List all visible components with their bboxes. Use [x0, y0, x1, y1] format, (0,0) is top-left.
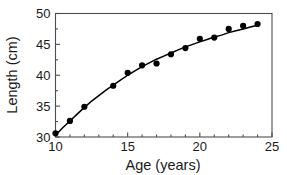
data-point-marker — [197, 36, 203, 42]
data-point-marker — [52, 130, 58, 136]
data-point-marker — [226, 26, 232, 32]
x-tick-label: 20 — [193, 139, 207, 154]
data-point-marker — [182, 45, 188, 51]
data-point-marker — [168, 51, 174, 57]
data-point-marker — [240, 23, 246, 29]
y-tick-label: 30 — [36, 130, 50, 145]
data-point-marker — [254, 21, 260, 27]
data-point-marker — [139, 62, 145, 68]
data-point-marker — [81, 104, 87, 110]
data-point-marker — [110, 83, 116, 89]
data-point-marker — [153, 60, 159, 66]
growth-curve-figure: 10152025 3035404550 Age (years) Length (… — [0, 0, 287, 175]
y-tick-label: 45 — [36, 37, 50, 52]
data-point-marker — [125, 70, 131, 76]
x-axis-title: Age (years) — [126, 157, 201, 173]
y-tick-label: 35 — [36, 99, 50, 114]
y-tick-label: 50 — [36, 6, 50, 21]
y-axis-title: Length (cm) — [4, 36, 20, 113]
y-tick-label: 40 — [36, 68, 50, 83]
x-tick-label: 15 — [120, 139, 134, 154]
data-point-marker — [67, 118, 73, 124]
x-tick-label: 25 — [265, 139, 279, 154]
chart-canvas: 10152025 3035404550 Age (years) Length (… — [0, 0, 287, 175]
data-point-marker — [211, 34, 217, 40]
